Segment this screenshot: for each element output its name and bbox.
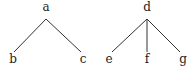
- tree-d: d e f g: [105, 0, 187, 66]
- node-d: d: [143, 0, 151, 14]
- node-a: a: [42, 0, 49, 14]
- node-e: e: [105, 52, 112, 66]
- edge-a-b: [14, 19, 46, 52]
- node-b: b: [9, 52, 17, 66]
- node-f: f: [145, 52, 151, 66]
- node-c: c: [80, 52, 87, 66]
- tree-diagram-canvas: a b c d e f g: [0, 0, 195, 68]
- tree-diagram: a b c d e f g: [0, 0, 195, 68]
- edge-a-c: [46, 19, 81, 52]
- edge-d-g: [147, 19, 180, 52]
- tree-a: a b c: [9, 0, 86, 66]
- node-g: g: [179, 52, 187, 66]
- edge-d-e: [112, 19, 147, 52]
